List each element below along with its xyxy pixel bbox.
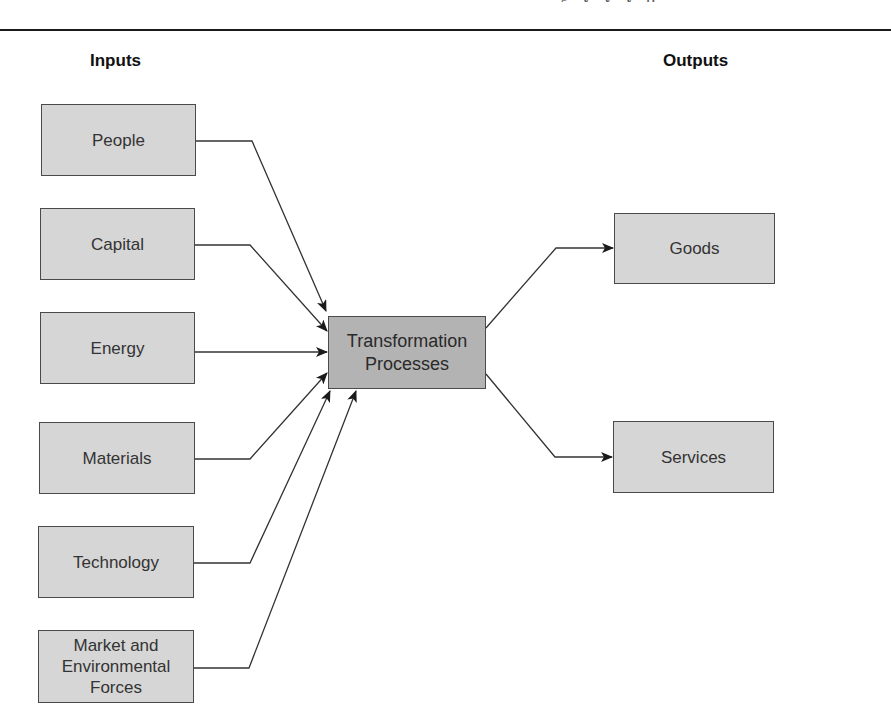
edge-technology-to-transformation bbox=[194, 391, 330, 563]
input-box-capital: Capital bbox=[40, 208, 195, 280]
edge-capital-to-transformation bbox=[195, 245, 327, 331]
edge-people-to-transformation bbox=[196, 141, 326, 311]
input-box-materials: Materials bbox=[39, 422, 195, 494]
input-label-technology: Technology bbox=[73, 552, 159, 573]
output-label-services: Services bbox=[661, 447, 726, 468]
inputs-header: Inputs bbox=[90, 51, 141, 71]
edge-transformation-to-goods bbox=[486, 248, 613, 328]
process-box-transformation: Transformation Processes bbox=[328, 316, 486, 389]
output-box-goods: Goods bbox=[614, 213, 775, 284]
input-label-market-environmental-forces: Market and Environmental Forces bbox=[62, 635, 171, 698]
input-label-people: People bbox=[92, 130, 145, 151]
input-label-materials: Materials bbox=[83, 448, 152, 469]
input-label-energy: Energy bbox=[91, 338, 145, 359]
edge-materials-to-transformation bbox=[195, 373, 327, 459]
edge-market-to-transformation bbox=[194, 391, 356, 668]
process-label-transformation: Transformation Processes bbox=[347, 330, 467, 376]
outputs-header: Outputs bbox=[663, 51, 728, 71]
output-box-services: Services bbox=[613, 421, 774, 493]
input-box-market-environmental-forces: Market and Environmental Forces bbox=[38, 630, 194, 703]
clipped-text-fragment: g y y y p bbox=[560, 0, 840, 2]
output-label-goods: Goods bbox=[669, 238, 719, 259]
input-box-people: People bbox=[41, 104, 196, 176]
edge-transformation-to-services bbox=[486, 374, 612, 457]
top-rule-divider bbox=[0, 29, 891, 31]
input-box-energy: Energy bbox=[40, 312, 195, 384]
input-label-capital: Capital bbox=[91, 234, 144, 255]
input-box-technology: Technology bbox=[38, 526, 194, 598]
